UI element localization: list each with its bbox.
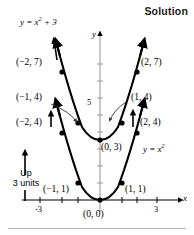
point-label-0-0: (0, 0): [83, 210, 104, 220]
equation-exponent: 2: [162, 143, 165, 149]
bottom-divider: [8, 228, 186, 229]
point-label-m2-7: (−2, 7): [16, 58, 42, 68]
equation-label-base: y = x2: [143, 145, 165, 154]
x-axis-label: x: [183, 194, 187, 203]
point-label-0-3: (0, 3): [101, 143, 122, 153]
equation-text: y = x: [143, 144, 162, 154]
up-label-line1: Up: [2, 168, 50, 178]
point-label-p2-4: (2, 4): [140, 118, 161, 128]
y-axis: [97, 34, 103, 212]
up-shift-annotation: Up 3 units: [2, 168, 50, 189]
y-tick-5: 5: [87, 98, 91, 107]
x-tick-3: 3: [154, 205, 158, 214]
callout-arrow-left: [51, 104, 76, 127]
up-label-line2: 3 units: [2, 178, 50, 188]
y-axis-label: y: [92, 30, 96, 39]
x-tick-minus3: -3: [35, 205, 42, 214]
point-label-m1-4: (−1, 4): [16, 93, 42, 103]
point-label-p1-4: (1, 4): [131, 93, 152, 103]
point-label-p2-7: (2, 7): [141, 58, 162, 68]
equation-label-shifted: y = x2 + 3: [20, 18, 57, 27]
point-label-p1-1: (1, 1): [125, 185, 146, 195]
equation-text: y = x: [20, 17, 39, 27]
equation-tail: + 3: [42, 17, 57, 27]
point-label-m2-4: (−2, 4): [16, 118, 42, 128]
solution-heading: Solution: [144, 5, 188, 17]
graph-figure: Solution y = x2 + 3 y = x2 y x -3 3 5 (−…: [0, 0, 194, 235]
